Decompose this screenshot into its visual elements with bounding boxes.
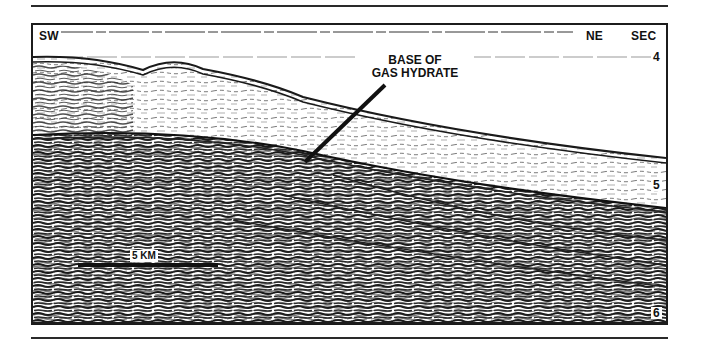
time-tick-4: 4 xyxy=(651,51,662,63)
time-tick-6: 6 xyxy=(651,307,662,319)
base-of-gas-hydrate-callout: BASE OF GAS HYDRATE xyxy=(356,54,474,80)
callout-line-2: GAS HYDRATE xyxy=(356,67,474,80)
ne-direction-label: NE xyxy=(584,30,605,42)
bottom-rule xyxy=(31,337,668,339)
top-rule xyxy=(31,5,668,7)
time-tick-5: 5 xyxy=(651,179,662,191)
sw-direction-label: SW xyxy=(37,30,61,42)
scale-bar-label: 5 KM xyxy=(130,250,158,262)
sec-axis-label: SEC xyxy=(629,30,658,42)
seismic-profile-figure: SW NE SEC 4 5 6 BASE OF GAS HYDRATE 5 KM xyxy=(31,23,668,325)
seismic-section-graphic xyxy=(33,25,666,322)
